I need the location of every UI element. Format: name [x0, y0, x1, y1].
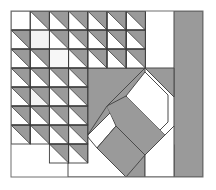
hst-empty-cell: [11, 11, 30, 30]
hst-empty-cell: [30, 30, 49, 49]
right-vertical-bar: [174, 11, 203, 177]
hst-empty-cell: [49, 49, 68, 68]
quilt-block-canvas: [0, 0, 216, 190]
quilt-block-figure: [0, 0, 216, 190]
block-contents: [11, 11, 203, 177]
